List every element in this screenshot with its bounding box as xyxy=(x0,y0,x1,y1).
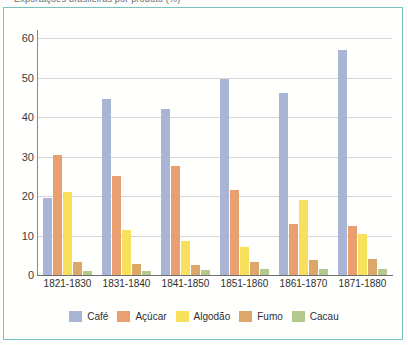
plot-area: 0102030405060 1821-18301831-18401841-185… xyxy=(0,0,408,345)
bar[interactable] xyxy=(319,269,328,275)
bar[interactable] xyxy=(279,93,288,275)
bar[interactable] xyxy=(260,269,269,275)
y-axis-tick-label: 60 xyxy=(8,33,34,44)
bar[interactable] xyxy=(378,269,387,275)
y-axis-ticks: 0102030405060 xyxy=(6,30,34,276)
bar[interactable] xyxy=(191,265,200,275)
bar-group xyxy=(97,38,156,275)
bar[interactable] xyxy=(63,192,72,275)
bar-group xyxy=(156,38,215,275)
legend-item[interactable]: Açúcar xyxy=(117,311,166,322)
legend-swatch-icon xyxy=(176,311,189,322)
legend-label: Café xyxy=(87,311,108,322)
bar[interactable] xyxy=(348,226,357,275)
legend-swatch-icon xyxy=(239,311,252,322)
bar[interactable] xyxy=(142,271,151,275)
bar[interactable] xyxy=(53,155,62,275)
bar[interactable] xyxy=(122,230,131,275)
chart-legend: CaféAçúcarAlgodãoFumoCacau xyxy=(10,305,398,327)
bar[interactable] xyxy=(181,241,190,275)
x-axis-line xyxy=(37,275,393,276)
legend-item[interactable]: Café xyxy=(69,311,108,322)
bar[interactable] xyxy=(102,99,111,275)
y-axis-tick-label: 30 xyxy=(8,152,34,163)
legend-swatch-icon xyxy=(292,311,305,322)
legend-swatch-icon xyxy=(117,311,130,322)
y-axis-tick-label: 50 xyxy=(8,73,34,84)
bar[interactable] xyxy=(368,259,377,275)
bar[interactable] xyxy=(161,109,170,275)
x-axis-tick-label: 1831-1840 xyxy=(97,278,156,290)
bar[interactable] xyxy=(309,260,318,275)
legend-swatch-icon xyxy=(69,311,82,322)
bar[interactable] xyxy=(358,234,367,275)
bar-group xyxy=(38,38,97,275)
x-axis-tick-label: 1841-1850 xyxy=(156,278,215,290)
bar[interactable] xyxy=(171,166,180,275)
bar[interactable] xyxy=(112,176,121,275)
y-axis-tick-label: 0 xyxy=(8,270,34,281)
bar-groups xyxy=(38,38,392,275)
bar[interactable] xyxy=(73,262,82,275)
bar[interactable] xyxy=(289,224,298,275)
bar[interactable] xyxy=(220,79,229,275)
legend-label: Fumo xyxy=(257,311,283,322)
legend-label: Cacau xyxy=(310,311,339,322)
bar[interactable] xyxy=(43,198,52,275)
bar[interactable] xyxy=(132,264,141,275)
bar[interactable] xyxy=(230,190,239,275)
legend-item[interactable]: Algodão xyxy=(176,311,231,322)
bar-group xyxy=(215,38,274,275)
legend-item[interactable]: Cacau xyxy=(292,311,339,322)
chart-screenshot: Exportações brasileiras por produto (%) … xyxy=(0,0,408,345)
y-axis-tick-label: 20 xyxy=(8,191,34,202)
y-axis-tick-label: 10 xyxy=(8,231,34,242)
x-axis-tick-label: 1821-1830 xyxy=(38,278,97,290)
bar-group xyxy=(274,38,333,275)
bar[interactable] xyxy=(299,200,308,275)
x-axis-tick-label: 1851-1860 xyxy=(215,278,274,290)
legend-label: Açúcar xyxy=(135,311,166,322)
bar[interactable] xyxy=(338,50,347,275)
bar-group xyxy=(333,38,392,275)
bar[interactable] xyxy=(201,270,210,275)
legend-label: Algodão xyxy=(194,311,231,322)
bar[interactable] xyxy=(240,247,249,275)
bar[interactable] xyxy=(83,271,92,275)
bar[interactable] xyxy=(250,262,259,275)
x-axis-tick-label: 1871-1880 xyxy=(333,278,392,290)
legend-item[interactable]: Fumo xyxy=(239,311,283,322)
y-axis-tick-label: 40 xyxy=(8,112,34,123)
x-axis-labels: 1821-18301831-18401841-18501851-18601861… xyxy=(38,278,392,294)
x-axis-tick-label: 1861-1870 xyxy=(274,278,333,290)
